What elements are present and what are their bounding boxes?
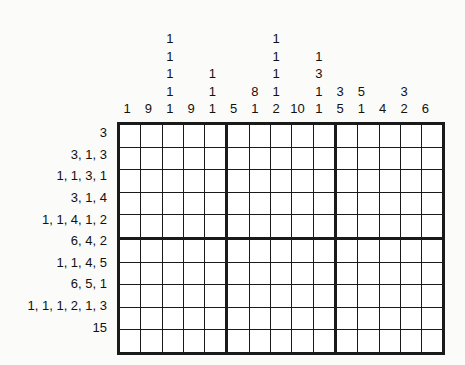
- grid-cell[interactable]: [422, 262, 444, 285]
- grid-cell[interactable]: [335, 285, 357, 308]
- grid-cell[interactable]: [162, 170, 183, 193]
- grid-cell[interactable]: [335, 262, 357, 285]
- grid-cell[interactable]: [292, 307, 313, 330]
- grid-cell[interactable]: [292, 170, 313, 193]
- grid-cell[interactable]: [183, 192, 204, 215]
- grid-cell[interactable]: [162, 238, 183, 262]
- grid-cell[interactable]: [119, 262, 141, 285]
- grid-row[interactable]: [119, 262, 444, 285]
- grid-cell[interactable]: [271, 307, 292, 330]
- grid-cell[interactable]: [292, 262, 313, 285]
- grid-cell[interactable]: [400, 307, 421, 330]
- grid-cell[interactable]: [141, 238, 162, 262]
- grid-cell[interactable]: [379, 215, 400, 239]
- grid-row[interactable]: [119, 238, 444, 262]
- grid-cell[interactable]: [422, 124, 444, 148]
- grid-cell[interactable]: [227, 170, 249, 193]
- grid-cell[interactable]: [422, 330, 444, 354]
- grid-cell[interactable]: [379, 307, 400, 330]
- grid-cell[interactable]: [400, 330, 421, 354]
- grid-cell[interactable]: [379, 124, 400, 148]
- grid-cell[interactable]: [205, 147, 227, 170]
- grid-cell[interactable]: [162, 147, 183, 170]
- grid-row[interactable]: [119, 285, 444, 308]
- grid-cell[interactable]: [379, 192, 400, 215]
- grid-cell[interactable]: [249, 330, 270, 354]
- grid-cell[interactable]: [141, 215, 162, 239]
- grid-cell[interactable]: [358, 147, 379, 170]
- nonogram-grid-body[interactable]: [119, 124, 444, 354]
- grid-cell[interactable]: [227, 262, 249, 285]
- grid-cell[interactable]: [422, 307, 444, 330]
- grid-cell[interactable]: [313, 330, 335, 354]
- grid-cell[interactable]: [271, 215, 292, 239]
- grid-cell[interactable]: [271, 330, 292, 354]
- grid-cell[interactable]: [249, 192, 270, 215]
- grid-cell[interactable]: [227, 285, 249, 308]
- grid-cell[interactable]: [400, 285, 421, 308]
- grid-cell[interactable]: [162, 124, 183, 148]
- grid-cell[interactable]: [358, 307, 379, 330]
- grid-cell[interactable]: [422, 215, 444, 239]
- grid-cell[interactable]: [358, 262, 379, 285]
- grid-cell[interactable]: [292, 147, 313, 170]
- grid-row[interactable]: [119, 307, 444, 330]
- grid-cell[interactable]: [313, 238, 335, 262]
- grid-cell[interactable]: [292, 215, 313, 239]
- grid-cell[interactable]: [249, 262, 270, 285]
- grid-cell[interactable]: [249, 147, 270, 170]
- grid-row[interactable]: [119, 170, 444, 193]
- grid-cell[interactable]: [249, 238, 270, 262]
- grid-cell[interactable]: [358, 285, 379, 308]
- grid-cell[interactable]: [335, 215, 357, 239]
- grid-cell[interactable]: [119, 330, 141, 354]
- grid-cell[interactable]: [271, 147, 292, 170]
- grid-cell[interactable]: [227, 307, 249, 330]
- grid-cell[interactable]: [205, 192, 227, 215]
- grid-cell[interactable]: [335, 147, 357, 170]
- grid-cell[interactable]: [227, 124, 249, 148]
- grid-cell[interactable]: [292, 124, 313, 148]
- grid-cell[interactable]: [183, 170, 204, 193]
- grid-cell[interactable]: [119, 215, 141, 239]
- grid-cell[interactable]: [205, 170, 227, 193]
- grid-cell[interactable]: [205, 262, 227, 285]
- grid-cell[interactable]: [358, 215, 379, 239]
- grid-cell[interactable]: [358, 192, 379, 215]
- grid-cell[interactable]: [292, 285, 313, 308]
- grid-cell[interactable]: [119, 238, 141, 262]
- grid-cell[interactable]: [358, 170, 379, 193]
- grid-cell[interactable]: [141, 170, 162, 193]
- grid-cell[interactable]: [249, 215, 270, 239]
- grid-cell[interactable]: [400, 147, 421, 170]
- grid-cell[interactable]: [379, 262, 400, 285]
- grid-cell[interactable]: [313, 285, 335, 308]
- grid-cell[interactable]: [422, 147, 444, 170]
- grid-cell[interactable]: [227, 147, 249, 170]
- grid-cell[interactable]: [400, 238, 421, 262]
- grid-cell[interactable]: [119, 170, 141, 193]
- grid-cell[interactable]: [183, 330, 204, 354]
- grid-cell[interactable]: [141, 330, 162, 354]
- grid-cell[interactable]: [422, 238, 444, 262]
- grid-cell[interactable]: [379, 238, 400, 262]
- grid-cell[interactable]: [162, 285, 183, 308]
- grid-cell[interactable]: [400, 124, 421, 148]
- grid-cell[interactable]: [313, 124, 335, 148]
- grid-cell[interactable]: [422, 192, 444, 215]
- grid-cell[interactable]: [313, 170, 335, 193]
- grid-cell[interactable]: [271, 124, 292, 148]
- grid-cell[interactable]: [422, 285, 444, 308]
- grid-cell[interactable]: [313, 262, 335, 285]
- grid-cell[interactable]: [205, 238, 227, 262]
- grid-cell[interactable]: [335, 192, 357, 215]
- grid-cell[interactable]: [162, 262, 183, 285]
- grid-cell[interactable]: [183, 147, 204, 170]
- grid-cell[interactable]: [335, 307, 357, 330]
- grid-cell[interactable]: [292, 330, 313, 354]
- grid-cell[interactable]: [313, 215, 335, 239]
- grid-cell[interactable]: [335, 330, 357, 354]
- grid-cell[interactable]: [141, 147, 162, 170]
- grid-cell[interactable]: [335, 238, 357, 262]
- grid-cell[interactable]: [119, 307, 141, 330]
